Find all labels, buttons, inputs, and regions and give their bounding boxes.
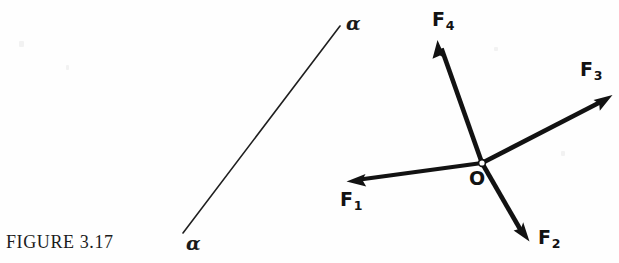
force-label-f4-subscript: 4 [445,18,455,33]
force-label-f4-base: F [432,8,445,30]
force-label-f4: F4 [432,10,455,29]
force-label-f2: F2 [538,228,561,247]
force-label-f3-subscript: 3 [593,68,603,83]
force-vector-f4 [433,40,483,163]
force-label-f3-base: F [580,58,593,80]
alpha-label-bottom: α [186,232,201,254]
force-label-f1-subscript: 1 [353,198,363,213]
figure-caption: FIGURE 3.17 [6,232,114,253]
force-label-f2-base: F [538,226,551,248]
origin-label: O [469,167,485,189]
force-label-f1: F1 [340,190,363,209]
force-label-f2-subscript: 2 [551,236,561,251]
alpha-label-top: α [346,12,361,34]
force-vector-f2 [482,163,530,242]
force-label-f1-base: F [340,188,353,210]
figure-3-17: α α F1 F2 F3 F4 O FIGURE 3.17 [0,0,619,263]
force-vector-f1 [347,163,483,186]
figure-vector-canvas [0,0,619,263]
force-label-f3: F3 [580,60,603,79]
origin-node [479,160,486,167]
force-vector-f3 [482,95,613,163]
angle-ray-line [183,26,340,233]
